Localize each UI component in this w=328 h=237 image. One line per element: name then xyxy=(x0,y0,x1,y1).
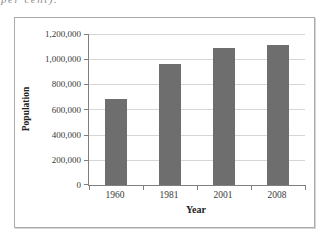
y-axis-tick xyxy=(84,160,89,161)
x-tick-label: 2008 xyxy=(255,190,299,200)
clipped-text-fragment: per cent). xyxy=(1,0,58,5)
x-axis-title: Year xyxy=(88,204,304,215)
x-tick-label: 2001 xyxy=(201,190,245,200)
y-axis-tick xyxy=(84,59,89,60)
y-tick-label: 800,000 xyxy=(17,79,81,90)
x-axis-tick xyxy=(305,185,306,190)
y-axis-tick xyxy=(84,34,89,35)
x-axis-tick xyxy=(251,185,252,190)
y-tick-label: 200,000 xyxy=(17,155,81,166)
chart-frame: Population 0200,000400,000600,000800,000… xyxy=(14,17,315,228)
bar-2001 xyxy=(213,48,235,185)
plot-area xyxy=(88,34,305,186)
x-tick-label: 1960 xyxy=(93,190,137,200)
y-tick-label: 0 xyxy=(17,180,81,191)
y-axis-tick xyxy=(84,109,89,110)
y-tick-label: 1,200,000 xyxy=(17,29,81,40)
bar-1981 xyxy=(159,64,181,185)
x-axis-tick xyxy=(143,185,144,190)
bar-1960 xyxy=(105,99,127,185)
x-axis-tick xyxy=(197,185,198,190)
gridline xyxy=(89,34,305,35)
y-axis-tick xyxy=(84,135,89,136)
y-tick-label: 1,000,000 xyxy=(17,54,81,65)
y-tick-label: 600,000 xyxy=(17,105,81,116)
x-tick-label: 1981 xyxy=(147,190,191,200)
y-tick-label: 400,000 xyxy=(17,130,81,141)
bar-2008 xyxy=(267,45,289,185)
x-axis-tick xyxy=(89,185,90,190)
y-axis-tick xyxy=(84,84,89,85)
